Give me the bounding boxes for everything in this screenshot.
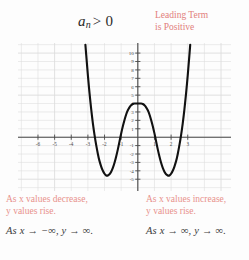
svg-text:-2: -2 — [130, 152, 135, 157]
right-note-prose: As x values increase, y values rise. — [146, 194, 246, 217]
svg-text:6: 6 — [131, 85, 134, 90]
svg-text:7: 7 — [131, 76, 134, 81]
right-end-behavior-note: As x values increase, y values rise. As … — [146, 194, 246, 236]
right-note-line-1: As x values increase, — [146, 194, 246, 206]
svg-text:-2: -2 — [102, 141, 107, 147]
leading-coefficient-expression: an> 0 — [78, 13, 113, 30]
left-note-line-1: As x values decrease, — [6, 194, 122, 206]
svg-text:-4: -4 — [130, 169, 135, 174]
leading-term-line-2: is Positive — [155, 22, 247, 34]
axis-ticks — [38, 53, 188, 179]
figure-header: an> 0 Leading Term is Positive — [0, 0, 249, 42]
coefficient-symbol: a — [78, 13, 86, 29]
svg-text:-5: -5 — [130, 177, 135, 182]
svg-text:2: 2 — [170, 141, 173, 147]
svg-text:-6: -6 — [36, 141, 41, 147]
polynomial-end-behavior-figure: an> 0 Leading Term is Positive -6-5-4-3-… — [0, 0, 249, 260]
left-note-prose: As x values decrease, y values rise. — [6, 194, 122, 217]
svg-text:-5: -5 — [52, 141, 57, 147]
coordinate-plane: -6-5-4-3-2-1123-5-4-3-2-112345678910 — [18, 43, 231, 191]
leading-term-callout: Leading Term is Positive — [155, 10, 247, 33]
svg-text:3: 3 — [186, 141, 189, 147]
svg-text:-1: -1 — [130, 143, 135, 148]
polynomial-graph-svg: -6-5-4-3-2-1123-5-4-3-2-112345678910 — [18, 43, 231, 191]
svg-text:8: 8 — [131, 68, 134, 73]
right-limit-statement: As x → ∞, y → ∞. — [146, 225, 246, 236]
right-note-line-2: y values rise. — [146, 206, 246, 218]
svg-text:2: 2 — [131, 118, 134, 123]
left-end-behavior-note: As x values decrease, y values rise. As … — [6, 194, 122, 236]
svg-text:-4: -4 — [69, 141, 74, 147]
svg-text:-3: -3 — [86, 141, 91, 147]
svg-text:3: 3 — [131, 110, 134, 115]
leading-term-line-1: Leading Term — [155, 10, 247, 22]
svg-text:9: 9 — [131, 59, 134, 64]
coefficient-relation: > 0 — [91, 13, 114, 29]
left-limit-statement: As x → −∞, y → ∞. — [6, 225, 122, 236]
svg-text:-3: -3 — [130, 160, 135, 165]
svg-text:1: 1 — [131, 127, 134, 132]
left-note-line-2: y values rise. — [6, 206, 122, 218]
svg-text:10: 10 — [129, 51, 135, 56]
